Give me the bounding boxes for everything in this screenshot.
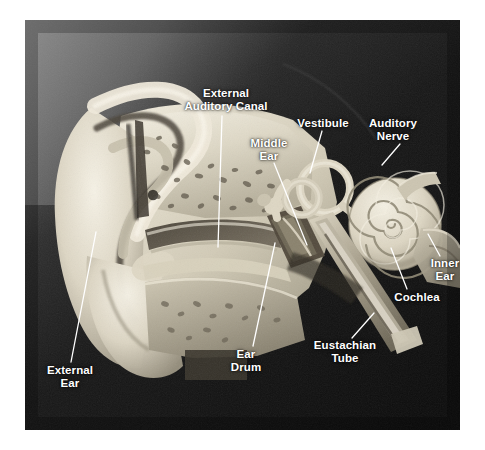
film-grain <box>25 20 460 430</box>
ear-model-photograph: External Auditory CanalMiddle EarVestibu… <box>25 20 460 430</box>
figure-page: External Auditory CanalMiddle EarVestibu… <box>0 0 485 450</box>
ear-model-illustration <box>25 20 460 430</box>
